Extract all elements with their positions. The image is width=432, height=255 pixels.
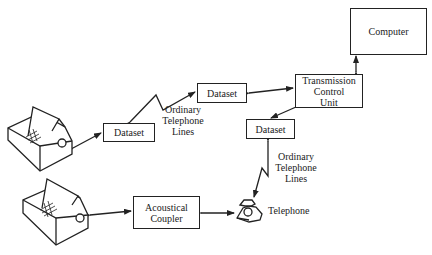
dataset-right-label: Dataset <box>256 124 286 135</box>
edge-tcu-dataset-right <box>271 107 296 118</box>
computer-label: Computer <box>369 26 409 37</box>
tcu-label-line2: Control <box>314 86 345 97</box>
acoustical-coupler-line2: Coupler <box>150 213 182 224</box>
lines-label-upper: Ordinary Telephone Lines <box>160 104 206 137</box>
edge-dataset-top-tcu <box>249 88 293 93</box>
dataset-left-box: Dataset <box>103 123 155 142</box>
dataset-top-label: Dataset <box>207 88 237 99</box>
edge-terminal-upper-dataset-left <box>73 133 101 148</box>
edge-terminal-lower-coupler <box>90 211 131 215</box>
lines-label-lower: Ordinary Telephone Lines <box>272 151 320 184</box>
telephone-label: Telephone <box>268 205 310 216</box>
terminal-lower-icon <box>23 179 88 245</box>
dataset-left-label: Dataset <box>114 127 144 138</box>
acoustical-coupler-box: Acoustical Coupler <box>133 196 200 229</box>
transmission-control-unit-box: Transmission Control Unit <box>295 74 363 108</box>
dataset-top-box: Dataset <box>197 83 247 103</box>
tcu-label-line1: Transmission <box>302 75 356 86</box>
tcu-label-line3: Unit <box>320 97 338 108</box>
dataset-right-box: Dataset <box>246 119 295 139</box>
telephone-icon <box>237 200 262 222</box>
terminal-upper-icon <box>8 107 72 171</box>
edge-dataset-right-telephone-lines <box>254 141 268 197</box>
computer-box: Computer <box>350 8 427 55</box>
acoustical-coupler-line1: Acoustical <box>145 202 188 213</box>
